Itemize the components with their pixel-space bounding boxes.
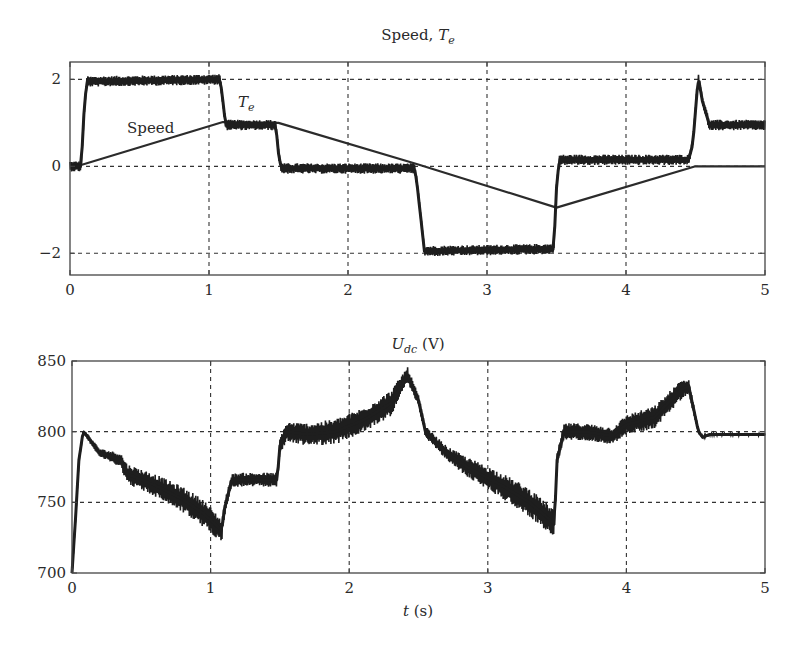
top-axis-ticks: 01234520−2 xyxy=(39,62,770,299)
x-axis-label: t (s) xyxy=(403,602,433,620)
x-tick-label: 5 xyxy=(760,281,770,299)
x-tick-label: 1 xyxy=(204,281,214,299)
speed-torque-chart: Speed, Te 01234520−2 Speed Te xyxy=(39,26,770,299)
top-plot-frame xyxy=(70,62,765,275)
y-tick-label: 800 xyxy=(37,423,66,441)
y-tick-label: 700 xyxy=(37,564,66,582)
y-tick-label: 2 xyxy=(51,70,61,88)
x-tick-label: 2 xyxy=(344,579,354,597)
bottom-axis-ticks: 012345850800750700 xyxy=(37,352,769,597)
annotation-speed: Speed xyxy=(127,119,175,137)
udc-chart: Udc (V) 012345850800750700 t (s) xyxy=(37,335,769,620)
y-tick-label: 0 xyxy=(51,157,61,175)
bottom-plot-frame xyxy=(72,361,765,573)
x-tick-label: 4 xyxy=(621,281,631,299)
bottom-series xyxy=(72,367,765,573)
x-tick-label: 1 xyxy=(206,579,216,597)
y-tick-label: 750 xyxy=(37,493,66,511)
x-tick-label: 3 xyxy=(482,281,492,299)
chart-title-speed-te: Speed, Te xyxy=(381,26,455,47)
x-tick-label: 2 xyxy=(343,281,353,299)
chart-figure: Speed, Te 01234520−2 Speed Te Udc (V) 01… xyxy=(0,0,799,647)
x-tick-label: 3 xyxy=(483,579,493,597)
x-tick-label: 5 xyxy=(760,579,770,597)
chart-title-udc: Udc (V) xyxy=(391,335,444,356)
top-grid xyxy=(70,62,765,275)
bottom-grid xyxy=(72,361,765,573)
x-tick-label: 0 xyxy=(65,281,75,299)
x-tick-label: 0 xyxy=(67,579,77,597)
y-tick-label: −2 xyxy=(39,244,61,262)
x-tick-label: 4 xyxy=(622,579,632,597)
top-series xyxy=(70,74,765,256)
annotation-te: Te xyxy=(238,93,255,114)
y-tick-label: 850 xyxy=(37,352,66,370)
